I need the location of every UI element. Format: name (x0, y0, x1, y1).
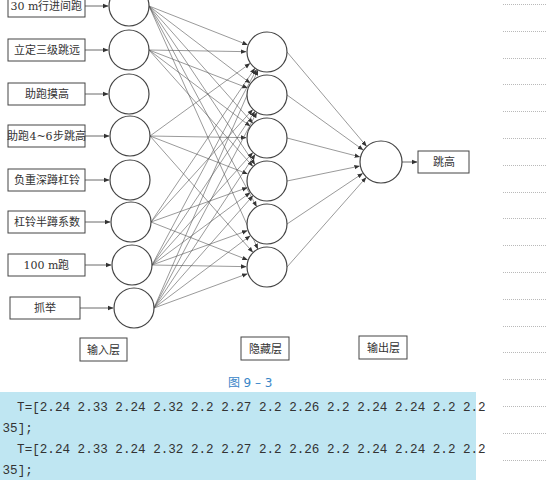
note-line (503, 326, 546, 327)
input-feature-box: 助跑4~6步跳高 (7, 125, 109, 147)
input-node (110, 116, 150, 156)
hidden-node (247, 247, 287, 287)
connection-line (152, 193, 250, 265)
note-line (503, 433, 546, 434)
connection-line (152, 153, 253, 265)
hidden-layer-nodes (247, 32, 287, 287)
input-feature-box: 100 m跑 (8, 254, 111, 276)
input-feature-label: 30 m行进间跑 (11, 0, 83, 13)
connection-line (149, 50, 246, 52)
connection-line (287, 138, 360, 157)
note-line (503, 379, 546, 380)
input-feature-box: 立定三级跳远 (8, 39, 108, 61)
input-boxes: 30 m行进间跑立定三级跳远助跑摸高助跑4~6步跳高负重深蹲杠铃杠铃半蹲系数10… (7, 0, 113, 319)
input-node (111, 202, 151, 242)
note-line (503, 299, 546, 300)
input-feature-label: 100 m跑 (24, 258, 70, 272)
connection-line (287, 166, 359, 181)
code-line: T=[2.24 2.33 2.24 2.32 2.2 2.27 2.2 2.26… (2, 443, 486, 457)
connection-line (287, 95, 363, 150)
connection-line (152, 231, 247, 265)
connection-line (150, 136, 246, 138)
note-line (503, 245, 546, 246)
connection-line (149, 50, 247, 88)
input-feature-label: 助跑4~6步跳高 (7, 129, 85, 143)
note-line (503, 138, 546, 139)
input-feature-box: 杠铃半蹲系数 (8, 211, 110, 233)
output-label: 跳高 (433, 155, 455, 169)
note-line (503, 4, 546, 5)
svg-text:输出层: 输出层 (367, 341, 400, 355)
note-line (503, 31, 546, 32)
connection-line (149, 50, 250, 126)
input-feature-box: 抓举 (10, 297, 113, 319)
layer-label-hidden: 隐藏层 (241, 337, 289, 360)
hidden-node (247, 75, 287, 115)
layer-labels: 输入层隐藏层输出层 (80, 336, 407, 361)
note-line (503, 352, 546, 353)
connection-line (150, 136, 253, 252)
margin-note-lines (503, 0, 546, 480)
hidden-node (247, 161, 287, 201)
note-line (503, 165, 546, 166)
input-feature-box: 30 m行进间跑 (8, 0, 108, 17)
hidden-node (247, 118, 287, 158)
layer-label-input: 输入层 (80, 338, 127, 361)
connection-line (287, 178, 366, 267)
connection-line (154, 155, 255, 308)
note-line (503, 460, 546, 461)
note-line (503, 272, 546, 273)
connection-line (149, 6, 255, 164)
code-line: .35]; (0, 422, 33, 436)
input-node (109, 74, 149, 114)
input-feature-box: 助跑摸高 (8, 83, 108, 105)
connection-line (154, 196, 253, 308)
svg-text:隐藏层: 隐藏层 (249, 343, 282, 356)
connection-line (151, 110, 253, 222)
hidden-node (247, 204, 287, 244)
output-node (360, 141, 402, 183)
input-feature-label: 抓举 (34, 301, 56, 315)
layer-label-output: 输出层 (359, 336, 407, 359)
input-node (114, 288, 154, 328)
note-line (503, 84, 546, 85)
connection-line (152, 112, 255, 265)
note-line (503, 111, 546, 112)
code-block: T=[2.24 2.33 2.24 2.32 2.2 2.27 2.2 2.26… (0, 392, 476, 480)
input-node (112, 245, 152, 285)
input-node (109, 0, 149, 26)
output-layer: 跳高 (360, 141, 469, 183)
connection-line (150, 64, 250, 136)
input-feature-box: 负重深蹲杠铃 (8, 169, 109, 191)
connection-line (152, 70, 256, 265)
connection-line (287, 174, 362, 224)
input-feature-label: 杠铃半蹲系数 (14, 215, 80, 229)
connection-line (151, 222, 247, 260)
connection-line (154, 274, 247, 308)
input-layer-nodes (109, 0, 154, 328)
connection-line (287, 52, 366, 146)
note-line (503, 406, 546, 407)
svg-text:输入层: 输入层 (87, 343, 120, 357)
note-line (503, 58, 546, 59)
hidden-node (247, 32, 287, 72)
code-line: T=[2.24 2.33 2.24 2.32 2.2 2.27 2.2 2.26… (2, 401, 486, 415)
connection-line (150, 136, 247, 174)
figure-caption: 图 9 – 3 (220, 373, 280, 390)
note-line (503, 192, 546, 193)
connection-line (149, 6, 250, 83)
code-line: .35]; (0, 464, 33, 478)
input-feature-label: 立定三级跳远 (14, 43, 80, 57)
input-node (110, 160, 150, 200)
input-feature-label: 助跑摸高 (25, 87, 69, 101)
input-node (109, 30, 149, 70)
note-line (503, 218, 546, 219)
connection-line (152, 265, 246, 267)
input-feature-label: 负重深蹲杠铃 (14, 173, 80, 187)
